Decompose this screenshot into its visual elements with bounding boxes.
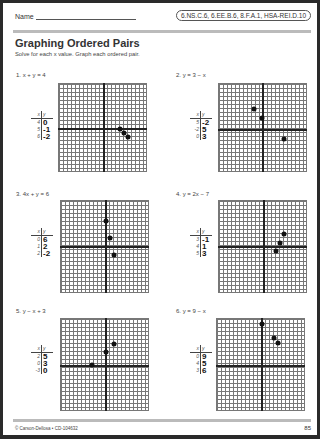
plotted-point (260, 116, 265, 121)
problem-5-grid[interactable] (60, 318, 149, 411)
plotted-point (104, 219, 109, 224)
problem-1-label: 1. x + y = 4 (16, 72, 46, 78)
problem-2-table: xy 5-2 -25 03 (190, 111, 212, 140)
plotted-point (112, 342, 117, 347)
problem-6-grid[interactable] (216, 318, 305, 411)
plotted-point (282, 232, 287, 237)
instructions: Solve for each x value. Graph each order… (15, 51, 140, 57)
problem-6-label: 6. y = 9 − x (176, 308, 206, 314)
answer-cell[interactable]: 3 (201, 133, 206, 140)
plotted-point (112, 253, 117, 258)
plotted-point (274, 249, 279, 254)
bottom-divider (13, 419, 311, 422)
y-axis (105, 318, 107, 411)
plotted-point (108, 236, 113, 241)
copyright: © Carson-Dellosa • CD-104632 (15, 426, 78, 431)
answer-cell[interactable]: 0 (42, 367, 47, 374)
problem-1-table: xy 40 5-1 6-2 (31, 111, 53, 140)
problem-5-label: 5. y − x + 3 (16, 308, 46, 314)
problem-3-table: xy 06 12 2-2 (31, 228, 53, 257)
name-line[interactable] (36, 19, 136, 20)
problem-3-grid[interactable] (60, 200, 149, 293)
y-axis (105, 200, 107, 293)
problem-2-grid[interactable] (218, 83, 307, 172)
answer-cell[interactable]: -2 (42, 133, 50, 140)
plotted-point (272, 336, 277, 341)
plotted-point (104, 350, 109, 355)
problem-2-label: 2. y = 3 − x (176, 72, 206, 78)
y-axis (263, 200, 265, 293)
answer-cell[interactable]: 6 (201, 367, 206, 374)
top-divider (13, 30, 311, 33)
problem-4-label: 4. y = 2x − 7 (176, 191, 209, 197)
page-title: Graphing Ordered Pairs (15, 37, 140, 49)
name-label: Name (15, 13, 34, 20)
plotted-point (260, 322, 265, 327)
problem-4-table: xy 3-1 41 53 (190, 228, 212, 257)
answer-cell[interactable]: 3 (201, 250, 206, 257)
standards-badge: 6.NS.C.6, 6.EE.B.6, 8.F.A.1, HSA-REI.D.1… (176, 10, 311, 21)
y-axis (261, 318, 263, 411)
answer-cell[interactable]: -2 (42, 250, 50, 257)
problem-1-grid[interactable] (58, 83, 147, 172)
page-number: 85 (304, 425, 311, 431)
plotted-point (252, 107, 257, 112)
plotted-point (126, 135, 131, 140)
worksheet-page: Name 6.NS.C.6, 6.EE.B.6, 8.F.A.1, HSA-RE… (3, 3, 317, 435)
problem-4-grid[interactable] (218, 200, 307, 293)
problem-5-table: xy 25 03 -30 (31, 345, 53, 374)
problem-3-label: 3. 4x + y = 6 (16, 191, 49, 197)
problem-6-table: xy 09 45 36 (190, 345, 212, 374)
plotted-point (90, 363, 95, 368)
plotted-point (278, 241, 283, 246)
y-axis (262, 83, 264, 172)
name-field[interactable]: Name (15, 13, 136, 20)
y-axis (103, 83, 105, 172)
plotted-point (276, 341, 281, 346)
plotted-point (282, 137, 287, 142)
